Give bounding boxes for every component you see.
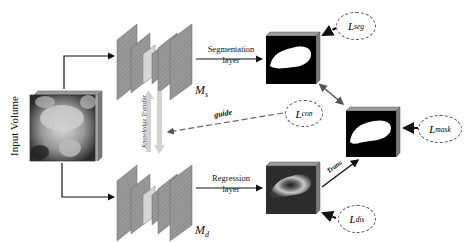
segmentation-layer-line1: Segmentation — [203, 44, 259, 55]
model-ms-base: M — [195, 83, 205, 97]
mask-output — [346, 107, 400, 157]
model-md-label: Md — [195, 223, 209, 239]
loss-seg: Lseg — [336, 12, 376, 40]
loss-mask-sub: mask — [435, 125, 450, 134]
framework-diagram — [0, 0, 468, 243]
consistency-arrow — [324, 88, 343, 104]
segmentation-layer-line2: layer — [203, 55, 259, 66]
network-md — [117, 165, 192, 241]
loss-dis-sub: dis — [356, 215, 365, 224]
network-ms — [117, 24, 192, 100]
segmentation-layer-label: Segmentation layer — [203, 44, 259, 66]
input-volume-label: Input Volume — [8, 96, 20, 156]
regression-layer-line1: Regression — [203, 173, 259, 184]
distance-output — [266, 162, 320, 214]
loss-dis: Ldis — [338, 205, 376, 233]
model-md-base: M — [195, 223, 205, 237]
regression-layer-label: Regression layer — [203, 173, 259, 195]
regression-layer-line2: layer — [203, 184, 259, 195]
model-ms-sub: s — [205, 90, 208, 99]
loss-seg-sub: seg — [354, 22, 364, 31]
knowledge-transfer-label: Knowledge Transfer — [140, 87, 147, 157]
loss-con: Lcon — [285, 100, 323, 127]
loss-con-sub: con — [302, 109, 313, 118]
loss-mask: Lmask — [418, 115, 462, 143]
model-md-sub: d — [205, 230, 209, 239]
layer-arrows — [196, 59, 262, 188]
model-ms-label: Ms — [195, 83, 208, 99]
input-volume — [30, 91, 102, 161]
segmentation-output — [266, 32, 320, 84]
